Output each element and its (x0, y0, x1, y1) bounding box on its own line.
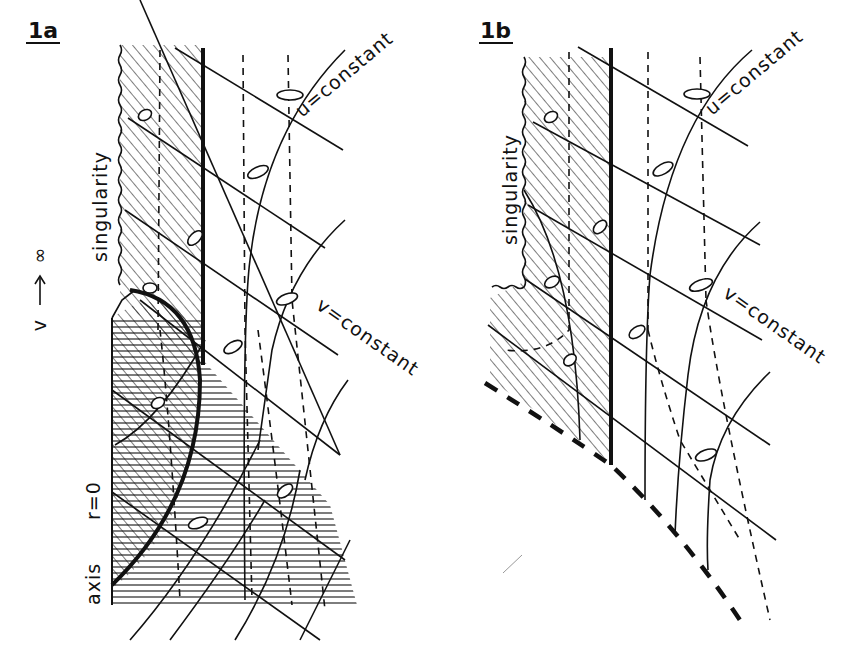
label-singularity: singularity (89, 151, 111, 262)
label-v-constant: v=constant (313, 293, 424, 380)
v-symbol: v (28, 319, 50, 331)
panel-1b: 1b (479, 18, 830, 620)
u-constant-curve (675, 222, 760, 535)
label-r-zero: r=0 (82, 481, 104, 520)
label-axis: axis (82, 563, 104, 605)
panel-title-1b: 1b (480, 18, 511, 43)
v-constant-line (488, 325, 776, 540)
u-constant-curve (258, 220, 345, 450)
stray-mark (503, 555, 522, 573)
light-cone (627, 323, 647, 342)
light-cone (222, 338, 244, 357)
label-u-constant: u=constant (700, 25, 806, 119)
v-to-infinity-annotation: ∞ v (28, 247, 50, 332)
panel-1a: 1a (26, 0, 423, 640)
light-cone (275, 291, 299, 308)
figure-canvas: 1a (0, 0, 854, 655)
label-u-constant: u=constant (290, 27, 396, 121)
panel-title-1a: 1a (28, 18, 58, 43)
infinity-symbol: ∞ (28, 247, 50, 264)
label-singularity: singularity (499, 134, 521, 245)
u-constant-curve (707, 372, 770, 570)
light-cone (246, 163, 270, 181)
light-cone (143, 283, 157, 293)
